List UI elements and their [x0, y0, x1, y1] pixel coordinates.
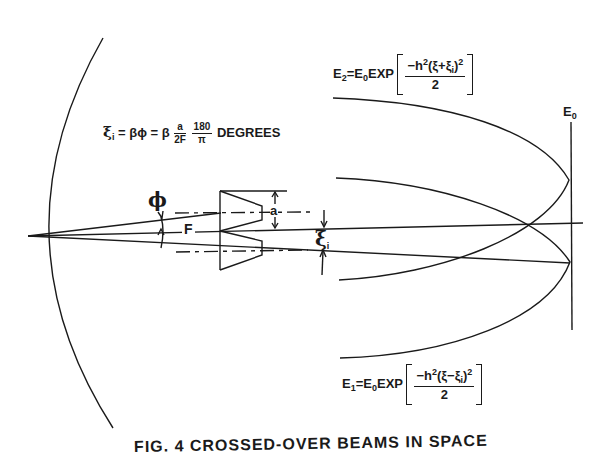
exp-function: EXP	[368, 66, 394, 81]
phi-label: ϕ	[148, 190, 167, 210]
exponent-fraction: −h2(ξ−ξi)2 2	[414, 368, 474, 401]
num-xi: (ξ+ξ	[428, 58, 452, 73]
denominator: 2	[405, 77, 465, 91]
denominator: 2	[414, 387, 474, 401]
subscript: 0	[572, 111, 577, 121]
f-label: F	[182, 222, 195, 236]
e2-equation: E2=E0EXP −h2(ξ+ξi)2 2	[333, 58, 473, 91]
denominator: 2F	[174, 134, 186, 145]
e-symbol: E	[563, 104, 572, 119]
e-symbol: E	[354, 66, 363, 81]
numerator: 180	[192, 122, 213, 134]
num-h: −h	[416, 368, 432, 383]
boresight-axis	[28, 223, 583, 236]
bracket-group: −h2(ξ−ξi)2 2	[406, 368, 482, 401]
num-xi: (ξ−ξ	[437, 368, 461, 383]
xi-symbol: ξ	[103, 123, 112, 141]
numerator: −h2(ξ+ξi)2	[405, 58, 465, 77]
e0-axis-label: E0	[563, 105, 577, 121]
xi-symbol: ξ	[315, 227, 327, 251]
superscript: 2	[467, 367, 472, 377]
denominator: π	[192, 134, 213, 145]
numerator: −h2(ξ−ξi)2	[414, 368, 474, 387]
superscript: 2	[458, 57, 463, 67]
exp-function: EXP	[377, 376, 403, 391]
offset-equation: ξi = βϕ = β a2F 180π DEGREES	[103, 122, 280, 145]
xi-i-label: ξi	[315, 229, 329, 251]
exponent-fraction: −h2(ξ+ξi)2 2	[405, 58, 465, 91]
fraction-a-over-2f: a2F	[174, 122, 186, 145]
lower-dashed-line	[176, 250, 308, 252]
fraction-180-over-pi: 180π	[192, 122, 213, 145]
e0-axis-line	[571, 122, 572, 330]
num-h: −h	[407, 58, 423, 73]
bracket-group: −h2(ξ+ξi)2 2	[397, 58, 473, 91]
e-symbol: E	[363, 376, 372, 391]
numerator: a	[174, 122, 186, 134]
e-symbol: E	[333, 66, 342, 81]
e1-equation: E1=E0EXP −h2(ξ−ξi)2 2	[342, 368, 482, 401]
crossed-beams-diagram	[0, 0, 614, 475]
subscript: i	[327, 241, 330, 251]
e1-pattern-curve	[336, 178, 570, 358]
e-symbol: E	[342, 376, 351, 391]
equation-middle: = βϕ = β	[114, 125, 169, 140]
upper-dashed-line	[175, 212, 310, 213]
a-label: a	[270, 204, 277, 217]
unit-label: DEGREES	[217, 125, 281, 140]
